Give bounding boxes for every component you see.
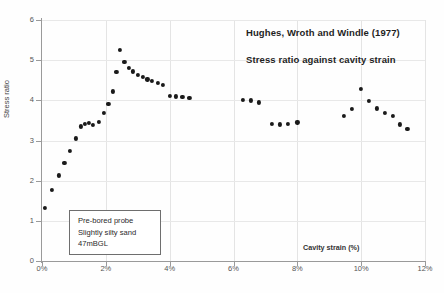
data-point <box>257 100 261 104</box>
x-axis-tick-label: 6% <box>214 265 254 273</box>
data-point <box>68 149 72 153</box>
y-axis-tick-label: 5 <box>6 56 34 64</box>
data-point <box>131 69 135 73</box>
y-axis-tick <box>36 20 42 21</box>
data-point <box>391 114 395 118</box>
y-axis-tick-label: 1 <box>6 217 34 225</box>
x-axis-tick-label: 12% <box>405 265 444 273</box>
x-axis-tick-label: 0% <box>22 265 62 273</box>
data-point <box>122 60 126 64</box>
data-point <box>97 120 101 124</box>
note-line-probe: Pre-bored probe <box>78 215 160 227</box>
x-axis-tick-label: 8% <box>277 265 317 273</box>
x-axis-tick-label: 2% <box>86 265 126 273</box>
data-point <box>145 77 149 81</box>
y-axis-tick-label: 3 <box>6 137 34 145</box>
data-point <box>286 122 290 126</box>
y-axis-tick <box>36 60 42 61</box>
data-point <box>114 70 118 74</box>
data-point <box>155 81 159 85</box>
y-axis-tick <box>36 221 42 222</box>
chart-container: Stress ratio Cavity strain (%) Hughes, W… <box>0 0 444 293</box>
data-point <box>168 93 172 97</box>
note-box: Pre-bored probe Slightly silty sand 47mB… <box>69 210 161 255</box>
data-point <box>270 122 274 126</box>
data-point <box>42 206 46 210</box>
data-point <box>350 107 354 111</box>
data-point <box>249 98 253 102</box>
data-point <box>359 87 363 91</box>
data-point <box>150 79 154 83</box>
y-axis-tick <box>36 181 42 182</box>
x-axis-tick-label: 4% <box>150 265 190 273</box>
data-point <box>398 122 402 126</box>
y-axis-tick <box>36 100 42 101</box>
citation-annotation: Hughes, Wroth and Windle (1977) <box>246 27 400 38</box>
gridline-horizontal <box>42 181 425 182</box>
data-point <box>79 124 83 128</box>
y-axis-tick-label: 0 <box>6 257 34 265</box>
y-axis-tick-label: 6 <box>6 16 34 24</box>
data-point <box>161 83 165 87</box>
data-point <box>127 66 131 70</box>
data-point <box>50 187 54 191</box>
note-line-depth: 47mBGL <box>78 238 160 250</box>
data-point <box>136 73 140 77</box>
data-point <box>118 48 122 52</box>
data-point <box>106 101 110 105</box>
data-point <box>383 111 387 115</box>
data-point <box>57 173 61 177</box>
gridline-vertical <box>425 20 426 261</box>
data-point <box>375 106 379 110</box>
data-point <box>111 89 115 93</box>
y-axis-tick-label: 2 <box>6 177 34 185</box>
data-point <box>295 120 299 124</box>
data-point <box>278 122 282 126</box>
x-axis-title: Cavity strain (%) <box>303 243 359 252</box>
data-point <box>405 127 409 131</box>
data-point <box>62 160 66 164</box>
subject-annotation: Stress ratio against cavity strain <box>246 54 396 65</box>
y-axis-tick-label: 4 <box>6 96 34 104</box>
data-point <box>91 123 95 127</box>
x-axis-tick-label: 10% <box>341 265 381 273</box>
y-axis-tick <box>36 141 42 142</box>
data-point <box>140 75 144 79</box>
data-point <box>180 95 184 99</box>
note-line-soil: Slightly silty sand <box>78 227 160 239</box>
data-point <box>187 95 191 99</box>
data-point <box>174 94 178 98</box>
data-point <box>367 99 371 103</box>
gridline-horizontal <box>42 20 425 21</box>
gridline-horizontal <box>42 141 425 142</box>
data-point <box>342 114 346 118</box>
